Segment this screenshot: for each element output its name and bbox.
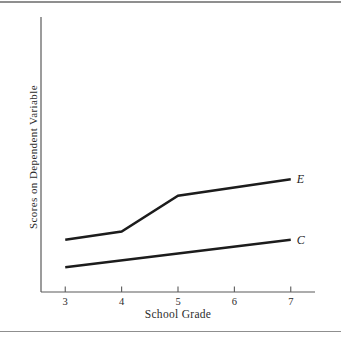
series-label-C: C — [297, 233, 306, 247]
series-label-E: E — [296, 172, 305, 186]
x-tick-label: 4 — [119, 296, 125, 307]
bottom-rule — [0, 331, 341, 332]
series-line-E — [65, 179, 291, 240]
line-chart: 34567EC Scores on Dependent Variable Sch… — [0, 0, 341, 345]
x-axis-label: School Grade — [41, 308, 315, 320]
x-tick-label: 3 — [63, 296, 68, 307]
series-line-C — [65, 240, 291, 268]
x-tick-label: 7 — [288, 296, 293, 307]
y-axis-label: Scores on Dependent Variable — [27, 85, 39, 229]
x-tick-label: 6 — [232, 296, 237, 307]
chart-canvas: 34567EC — [0, 0, 341, 345]
x-tick-label: 5 — [175, 296, 180, 307]
figure: 34567EC Scores on Dependent Variable Sch… — [0, 0, 341, 345]
